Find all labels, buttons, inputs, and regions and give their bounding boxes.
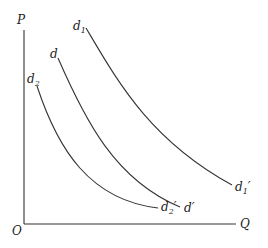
demand-curves-diagram: P Q O d1 d1′ d d′ d2 d2′ [0,0,268,248]
y-axis-label: P [16,13,26,27]
curve-d-end-label: d′ [184,201,195,215]
curve-d-start-label: d [50,47,58,61]
x-axis-label: Q [240,217,250,231]
curve-d1-end-label: d1′ [235,180,251,196]
curve-d2 [37,86,158,208]
curve-d1-start-label: d1 [73,19,86,35]
curve-d1 [86,28,232,185]
origin-label: O [12,224,22,238]
curve-d2-start-label: d2 [27,72,40,88]
